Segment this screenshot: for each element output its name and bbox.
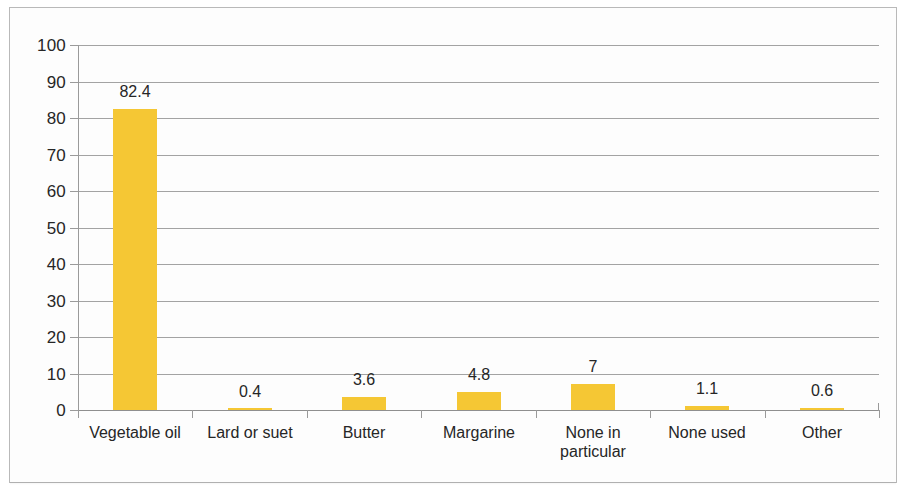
y-tick-label: 100 xyxy=(20,37,66,54)
y-tick-label: 60 xyxy=(20,183,66,200)
bar-value-label: 0.6 xyxy=(811,383,833,399)
bar-chart: 1009080706050403020100 82.40.43.64.871.1… xyxy=(0,0,905,496)
x-axis-category-label: None used xyxy=(668,423,745,442)
bar xyxy=(113,109,157,410)
bar-value-label: 4.8 xyxy=(468,367,490,383)
y-tick-label: 10 xyxy=(20,366,66,383)
x-tick xyxy=(421,410,422,418)
x-tick xyxy=(536,410,537,418)
bar xyxy=(571,384,615,410)
bar xyxy=(800,408,844,410)
y-tick-label: 70 xyxy=(20,147,66,164)
bar-value-label: 3.6 xyxy=(353,372,375,388)
y-axis-tick-labels: 1009080706050403020100 xyxy=(14,0,66,496)
bar xyxy=(457,392,501,410)
x-tick xyxy=(879,410,880,418)
x-axis-category-label: Butter xyxy=(343,423,386,442)
y-tick-label: 20 xyxy=(20,329,66,346)
bar-value-label: 1.1 xyxy=(696,381,718,397)
x-axis-category-label: Vegetable oil xyxy=(89,423,181,442)
bar-value-label: 82.4 xyxy=(119,84,150,100)
y-tick-label: 50 xyxy=(20,220,66,237)
screenshot-root: 1009080706050403020100 82.40.43.64.871.1… xyxy=(0,0,905,496)
y-tick-label: 0 xyxy=(20,402,66,419)
bar-value-label: 7 xyxy=(589,359,598,375)
x-tick xyxy=(765,410,766,418)
x-tick xyxy=(307,410,308,418)
x-tick xyxy=(192,410,193,418)
gridline-0 xyxy=(78,410,879,411)
bar xyxy=(685,406,729,410)
y-tick-label: 90 xyxy=(20,74,66,91)
y-tick-label: 30 xyxy=(20,293,66,310)
x-tick xyxy=(78,410,79,418)
bar xyxy=(228,408,272,410)
y-tick-label: 40 xyxy=(20,256,66,273)
bar-series xyxy=(78,45,879,410)
x-axis-category-label: Lard or suet xyxy=(207,423,292,442)
bar xyxy=(342,397,386,410)
y-tick-label: 80 xyxy=(20,110,66,127)
bar-value-label: 0.4 xyxy=(239,384,261,400)
x-tick xyxy=(650,410,651,418)
x-axis-category-label: None in particular xyxy=(560,423,626,461)
x-axis-category-label: Other xyxy=(802,423,842,442)
x-axis-category-label: Margarine xyxy=(443,423,515,442)
